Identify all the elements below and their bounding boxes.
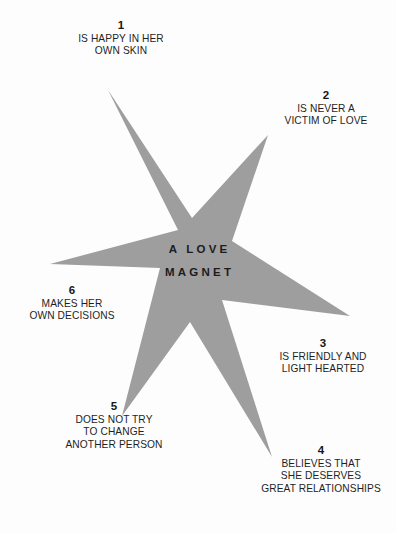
- callout-6-line-1: MAKES HER: [12, 298, 132, 310]
- callout-1-line-1: IS HAPPY IN HER: [48, 33, 194, 45]
- callout-5-line-3: ANOTHER PERSON: [42, 439, 186, 451]
- callout-2-number: 2: [258, 88, 394, 102]
- callout-3: 3 IS FRIENDLY AND LIGHT HEARTED: [252, 336, 394, 376]
- callout-1-text: IS HAPPY IN HER OWN SKIN: [48, 33, 194, 58]
- callout-2-line-1: IS NEVER A: [258, 103, 394, 115]
- love-magnet-diagram: A LOVE MAGNET 1 IS HAPPY IN HER OWN SKIN…: [0, 0, 396, 533]
- callout-2: 2 IS NEVER A VICTIM OF LOVE: [258, 88, 394, 128]
- center-title-line-2: MAGNET: [0, 266, 396, 278]
- callout-1-number: 1: [48, 18, 194, 32]
- callout-3-text: IS FRIENDLY AND LIGHT HEARTED: [252, 351, 394, 376]
- callout-6: 6 MAKES HER OWN DECISIONS: [12, 283, 132, 323]
- callout-5-number: 5: [42, 399, 186, 413]
- callout-3-number: 3: [252, 336, 394, 350]
- callout-1-line-2: OWN SKIN: [48, 45, 194, 57]
- callout-3-line-1: IS FRIENDLY AND: [252, 351, 394, 363]
- callout-4-line-1: BELIEVES THAT: [246, 458, 396, 470]
- callout-6-line-2: OWN DECISIONS: [12, 310, 132, 322]
- callout-1: 1 IS HAPPY IN HER OWN SKIN: [48, 18, 194, 58]
- callout-5-line-2: TO CHANGE: [42, 426, 186, 438]
- callout-2-line-2: VICTIM OF LOVE: [258, 115, 394, 127]
- callout-4: 4 BELIEVES THAT SHE DESERVES GREAT RELAT…: [246, 443, 396, 495]
- callout-6-text: MAKES HER OWN DECISIONS: [12, 298, 132, 323]
- callout-4-line-3: GREAT RELATIONSHIPS: [246, 483, 396, 495]
- center-title-line-1: A LOVE: [0, 243, 396, 255]
- callout-4-line-2: SHE DESERVES: [246, 470, 396, 482]
- callout-4-text: BELIEVES THAT SHE DESERVES GREAT RELATIO…: [246, 458, 396, 495]
- callout-5-text: DOES NOT TRY TO CHANGE ANOTHER PERSON: [42, 414, 186, 451]
- callout-3-line-2: LIGHT HEARTED: [252, 363, 394, 375]
- callout-2-text: IS NEVER A VICTIM OF LOVE: [258, 103, 394, 128]
- callout-5-line-1: DOES NOT TRY: [42, 414, 186, 426]
- callout-4-number: 4: [246, 443, 396, 457]
- callout-6-number: 6: [12, 283, 132, 297]
- callout-5: 5 DOES NOT TRY TO CHANGE ANOTHER PERSON: [42, 399, 186, 451]
